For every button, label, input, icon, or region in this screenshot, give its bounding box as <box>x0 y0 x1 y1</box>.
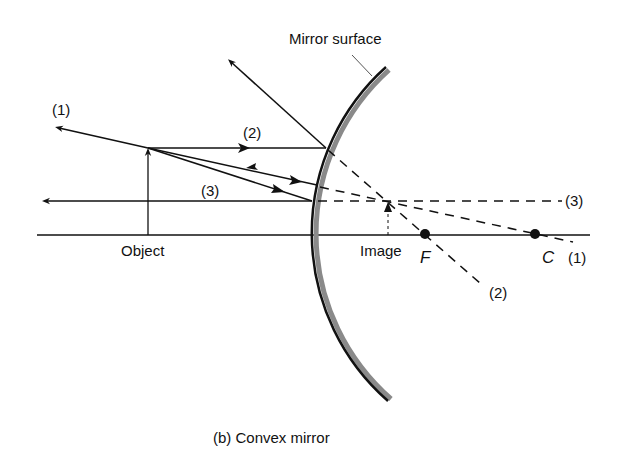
figure-caption: (b) Convex mirror <box>213 429 330 446</box>
image-label: Image <box>360 242 402 259</box>
convex-mirror <box>312 67 391 401</box>
focal-point-label: F <box>420 248 432 267</box>
center-label: C <box>542 248 555 267</box>
mirror-surface-label: Mirror surface <box>289 30 382 47</box>
ray-3 <box>46 148 562 201</box>
ray-1-label: (1) <box>52 101 70 118</box>
ray-3-label: (3) <box>201 182 219 199</box>
ray-2-virtual <box>328 150 481 284</box>
convex-mirror-diagram: Mirror surface (1) (2) (3) (3) (1) (2) O… <box>0 0 618 457</box>
ray-2-label: (2) <box>243 124 261 141</box>
ray-2-virtual-label: (2) <box>489 284 507 301</box>
object-label: Object <box>121 242 165 259</box>
image-arrow <box>384 202 392 235</box>
ray-3-virtual-label: (3) <box>565 192 583 209</box>
mirror-leader-line <box>352 55 372 76</box>
center-of-curvature-dot <box>530 229 540 239</box>
ray-1-virtual-label: (1) <box>568 249 586 266</box>
focal-point-dot <box>420 229 430 239</box>
